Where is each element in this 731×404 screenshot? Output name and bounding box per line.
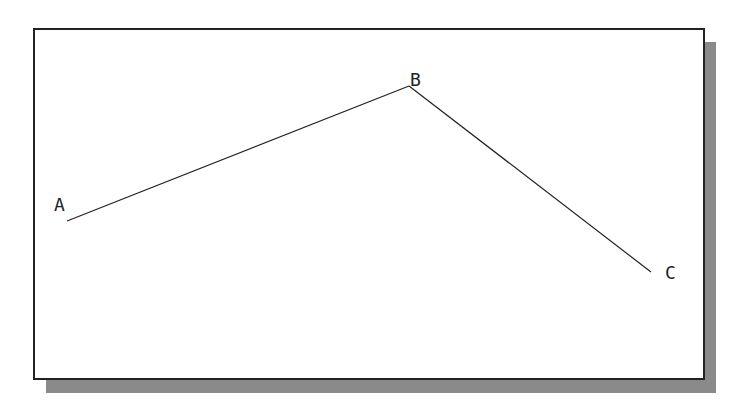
point-label-b: B: [410, 69, 421, 90]
diagram-canvas: A B C: [0, 0, 731, 404]
segment-b-c: [409, 86, 651, 272]
point-label-c: C: [665, 262, 676, 283]
point-label-a: A: [54, 194, 65, 215]
segment-a-b: [67, 86, 409, 221]
